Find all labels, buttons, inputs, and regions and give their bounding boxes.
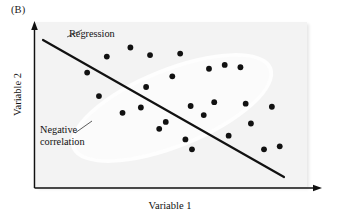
data-point	[206, 66, 212, 72]
x-axis	[35, 185, 323, 192]
data-point	[177, 51, 183, 57]
data-point	[96, 93, 102, 99]
data-point	[201, 112, 207, 118]
figure-panel-b: (B) Variable 2 Variable 1 Regression N	[0, 0, 340, 221]
x-axis-label: Variable 1	[110, 200, 230, 211]
data-point	[248, 121, 254, 127]
data-point	[138, 105, 144, 111]
data-point	[277, 143, 283, 149]
data-point	[222, 62, 228, 68]
data-point	[169, 73, 175, 79]
data-point	[104, 54, 110, 60]
data-point	[211, 99, 217, 105]
data-point	[143, 84, 149, 90]
data-point	[189, 146, 195, 152]
negative-correlation-line-2: correlation	[40, 136, 85, 148]
y-axis	[31, 21, 38, 188]
data-point	[188, 103, 194, 109]
negative-correlation-line-1: Negative	[40, 124, 77, 135]
y-axis-label: Variable 2	[12, 47, 23, 143]
data-point	[120, 110, 126, 116]
data-point	[261, 146, 267, 152]
data-point	[183, 137, 189, 143]
data-point	[226, 133, 232, 139]
data-point	[163, 119, 169, 125]
data-point	[238, 64, 244, 70]
scatter-plot-graphic	[0, 0, 340, 221]
regression-annotation: Regression	[69, 28, 115, 40]
correlation-cloud-shading	[57, 30, 287, 185]
data-point	[127, 45, 133, 51]
negative-correlation-annotation: Negative correlation	[40, 124, 85, 147]
data-point	[269, 104, 275, 110]
data-point	[156, 126, 162, 132]
data-point	[147, 52, 153, 58]
data-point	[84, 70, 90, 76]
data-point	[243, 101, 249, 107]
